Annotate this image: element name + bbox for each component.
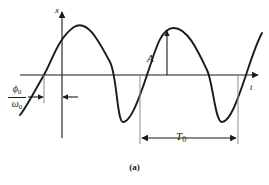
period-subscript: 0 <box>182 135 186 144</box>
omega-symbol: ω <box>12 98 19 109</box>
phase-shift-label: ϕ0 ω0 <box>8 84 26 112</box>
t-axis-label: t <box>250 83 253 92</box>
period-label: T0 <box>176 131 186 144</box>
omega-subscript: 0 <box>19 103 23 111</box>
sinusoid-plot <box>0 0 269 185</box>
sinusoid-curve <box>20 25 262 122</box>
figure-caption: (a) <box>0 163 269 172</box>
figure-container: x t A T0 ϕ0 ω0 (a) <box>0 0 269 185</box>
phase-denominator: ω0 <box>11 99 24 111</box>
phase-numerator: ϕ0 <box>12 84 23 96</box>
phi-subscript: 0 <box>18 88 22 96</box>
amplitude-label: A <box>147 53 154 64</box>
x-axis-label: x <box>55 6 59 15</box>
